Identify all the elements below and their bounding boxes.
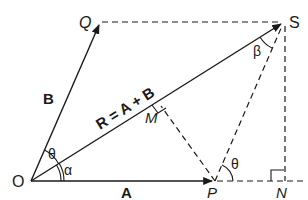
- point-label-n: N: [276, 184, 287, 200]
- point-label-q: Q: [79, 14, 91, 31]
- dashed-ps: [215, 26, 282, 181]
- vector-diagram: Q S O P N M A B R = A + B θ α β θ: [0, 0, 308, 200]
- vector-b-line: [31, 25, 99, 181]
- point-label-o: O: [12, 173, 24, 190]
- dashed-pm: [161, 106, 215, 181]
- point-label-m: M: [145, 109, 158, 126]
- alpha-arc-o-inner: [57, 165, 62, 181]
- vector-label-a: A: [121, 184, 132, 200]
- beta-arc-s: [260, 37, 272, 48]
- vector-r-line: [31, 24, 281, 181]
- point-label-p: P: [207, 184, 217, 200]
- right-angle-mark-n: [271, 170, 284, 181]
- vector-label-b: B: [43, 90, 54, 107]
- angle-label-theta-p: θ: [231, 156, 239, 172]
- angle-label-beta: β: [253, 43, 261, 59]
- angle-label-alpha: α: [64, 162, 72, 178]
- point-label-s: S: [289, 14, 300, 31]
- angle-label-theta-o: θ: [48, 146, 56, 162]
